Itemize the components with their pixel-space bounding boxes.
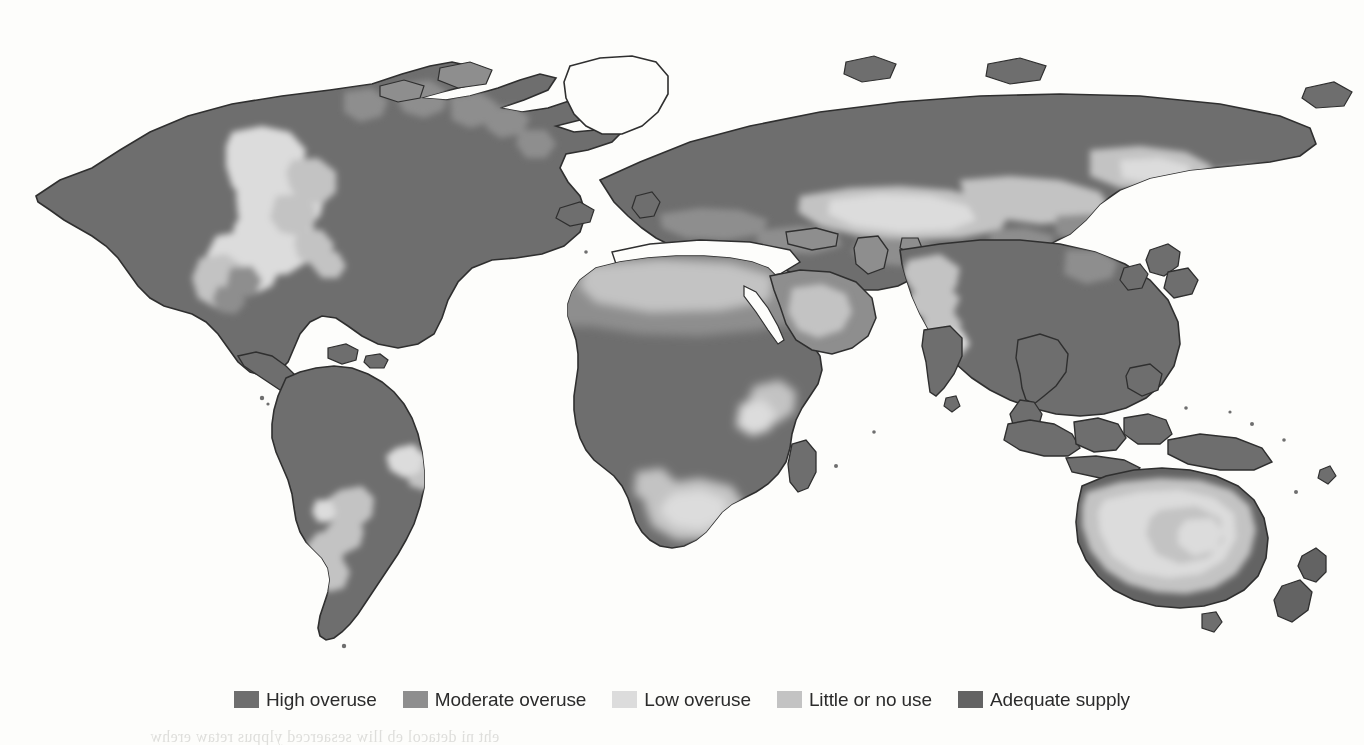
legend-label-high-overuse: High overuse [266,690,377,709]
legend-label-adequate-supply: Adequate supply [990,690,1130,709]
legend-item-low-overuse[interactable]: Low overuse [612,690,751,709]
color-swatch-moderate-overuse [403,691,428,708]
color-swatch-high-overuse [234,691,259,708]
color-swatch-adequate-supply [958,691,983,708]
legend-item-moderate-overuse[interactable]: Moderate overuse [403,690,587,709]
color-swatch-little-or-no-use [777,691,802,708]
legend-item-little-or-no-use[interactable]: Little or no use [777,690,932,709]
legend-item-adequate-supply[interactable]: Adequate supply [958,690,1130,709]
legend-item-high-overuse[interactable]: High overuse [234,690,377,709]
color-swatch-low-overuse [612,691,637,708]
legend-label-little-or-no-use: Little or no use [809,690,932,709]
map-legend: High overuse Moderate overuse Low overus… [0,690,1364,709]
world-map [0,0,1364,660]
bleed-through-line-3: eht ni detacol eb lliw sesaerced ylppus … [150,728,499,745]
legend-label-moderate-overuse: Moderate overuse [435,690,587,709]
legend-label-low-overuse: Low overuse [644,690,751,709]
figure-container: noitalupop labolg eht fo flah naht erom … [0,0,1364,745]
world-map-svg [0,0,1364,660]
